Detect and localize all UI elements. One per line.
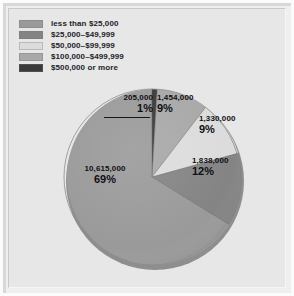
pie-label-25000-49999: 1,838,000 12% bbox=[192, 156, 264, 177]
pie-label-leader-line-500000-or-more bbox=[104, 117, 150, 118]
legend-label-less-than-25000: less than $25,000 bbox=[51, 19, 119, 29]
legend-item-25000-49999[interactable]: $25,000–$49,999 bbox=[19, 29, 199, 40]
pie-label-percent: 9% bbox=[157, 102, 229, 114]
chart-canvas: 205,000 1% 1,454,000 9% 1,330,000 9% 1,8… bbox=[9, 9, 285, 287]
pie-label-percent: 9% bbox=[199, 123, 271, 135]
legend-label-100000-499999: $100,000–$499,999 bbox=[51, 52, 124, 62]
legend-swatch-500000-or-more bbox=[19, 64, 43, 72]
pie-label-less-than-25000: 10,615,000 69% bbox=[59, 164, 151, 185]
legend-swatch-25000-49999 bbox=[19, 31, 43, 39]
legend-swatch-less-than-25000 bbox=[19, 20, 43, 28]
pie-label-percent: 12% bbox=[192, 165, 264, 177]
legend-label-50000-99999: $50,000–$99,999 bbox=[51, 41, 115, 51]
pie-label-percent: 69% bbox=[59, 173, 151, 185]
pie-label-value: 1,454,000 bbox=[157, 93, 229, 102]
pie-label-500000-or-more: 205,000 1% bbox=[81, 93, 153, 114]
pie-label-percent: 1% bbox=[81, 102, 153, 114]
legend-swatch-100000-499999 bbox=[19, 53, 43, 61]
legend-item-less-than-25000[interactable]: less than $25,000 bbox=[19, 18, 199, 29]
chart-legend: less than $25,000 $25,000–$49,999 $50,00… bbox=[19, 18, 199, 73]
legend-item-500000-or-more[interactable]: $500,000 or more bbox=[19, 62, 199, 73]
pie-label-50000-99999: 1,330,000 9% bbox=[199, 114, 271, 135]
pie-label-100000-499999: 1,454,000 9% bbox=[157, 93, 229, 114]
legend-label-25000-49999: $25,000–$49,999 bbox=[51, 30, 115, 40]
legend-item-50000-99999[interactable]: $50,000–$99,999 bbox=[19, 40, 199, 51]
legend-swatch-50000-99999 bbox=[19, 42, 43, 50]
legend-label-500000-or-more: $500,000 or more bbox=[51, 63, 118, 73]
pie-label-value: 1,838,000 bbox=[192, 156, 264, 165]
pie-label-value: 205,000 bbox=[81, 93, 153, 102]
legend-item-100000-499999[interactable]: $100,000–$499,999 bbox=[19, 51, 199, 62]
pie-label-value: 1,330,000 bbox=[199, 114, 271, 123]
screenshot-root: 205,000 1% 1,454,000 9% 1,330,000 9% 1,8… bbox=[0, 0, 294, 296]
pie-label-value: 10,615,000 bbox=[59, 164, 151, 173]
